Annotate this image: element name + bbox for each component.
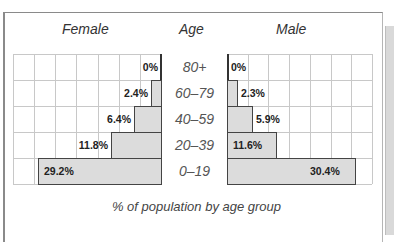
chart-caption: % of population by age group xyxy=(0,199,393,214)
female-value-label: 29.2% xyxy=(44,158,74,184)
age-label: 0–19 xyxy=(161,158,228,184)
male-value-label: 30.4% xyxy=(310,158,340,184)
male-value-label: 11.6% xyxy=(233,132,262,158)
age-label: 60–79 xyxy=(161,80,228,106)
female-value-label: 11.8% xyxy=(79,132,108,158)
grid-line xyxy=(372,54,373,184)
age-label: 80+ xyxy=(161,54,228,80)
female-header: Female xyxy=(62,21,109,37)
female-bar xyxy=(134,106,162,133)
female-value-label: 0% xyxy=(143,54,158,80)
male-value-label: 2.3% xyxy=(241,80,265,106)
grid-line xyxy=(227,54,372,55)
male-value-label: 0% xyxy=(231,54,246,80)
grid-line xyxy=(34,54,35,184)
age-label: 20–39 xyxy=(161,132,228,158)
male-bar xyxy=(227,80,238,107)
male-header: Male xyxy=(276,21,306,37)
female-grid: 0%2.4%6.4%11.8%29.2% xyxy=(13,54,162,184)
grid-line xyxy=(13,54,14,184)
male-grid: 0%2.3%5.9%11.6%30.4% xyxy=(227,54,373,184)
female-value-label: 6.4% xyxy=(107,106,131,132)
grid-line xyxy=(13,54,161,55)
female-value-label: 2.4% xyxy=(124,80,148,106)
male-bar xyxy=(227,106,253,133)
age-header: Age xyxy=(179,21,204,37)
female-bar xyxy=(111,132,162,159)
male-value-label: 5.9% xyxy=(256,106,280,132)
age-label: 40–59 xyxy=(161,106,228,132)
